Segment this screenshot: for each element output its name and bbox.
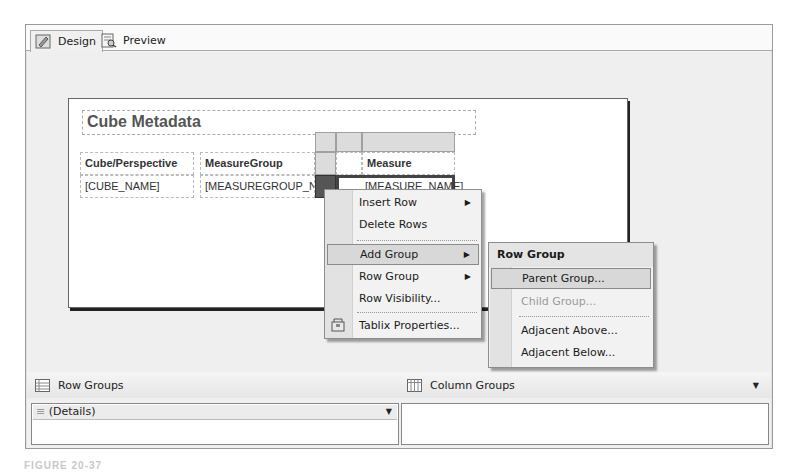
design-icon bbox=[35, 34, 52, 49]
context-menu: Insert Row ▶ Delete Rows Add Group ▶ Row… bbox=[324, 189, 482, 339]
menu-item-label: Adjacent Above... bbox=[521, 324, 618, 337]
submenu-item-adjacent-above[interactable]: Adjacent Above... bbox=[491, 320, 651, 341]
row-groups-label: Row Groups bbox=[58, 379, 124, 392]
menu-separator bbox=[519, 316, 649, 317]
header-cell-empty[interactable] bbox=[336, 152, 362, 175]
tablix-corner-handle[interactable] bbox=[315, 132, 336, 152]
row-groups-header: Row Groups bbox=[27, 372, 399, 398]
tab-design[interactable]: Design bbox=[30, 30, 103, 52]
column-handle[interactable] bbox=[336, 132, 362, 152]
submenu-arrow-icon: ▶ bbox=[465, 266, 471, 287]
row-groups-list: ≡ (Details) ▼ bbox=[31, 403, 399, 445]
menu-item-label: Delete Rows bbox=[359, 218, 427, 231]
figure-caption: FIGURE 20-37 bbox=[24, 460, 102, 471]
column-groups-header: Column Groups ▼ bbox=[399, 372, 771, 398]
tab-bar: Design Preview bbox=[26, 25, 772, 51]
menu-item-label: Row Group bbox=[359, 270, 419, 283]
properties-icon bbox=[331, 318, 346, 339]
column-groups-list bbox=[401, 403, 769, 445]
menu-separator bbox=[357, 240, 477, 241]
menu-item-delete-rows[interactable]: Delete Rows bbox=[327, 214, 479, 235]
menu-item-row-group[interactable]: Row Group ▶ bbox=[327, 266, 479, 287]
menu-item-label: Parent Group... bbox=[522, 272, 605, 285]
submenu-header: Row Group bbox=[489, 243, 653, 267]
tab-design-label: Design bbox=[58, 35, 96, 48]
row-group-item-label: (Details) bbox=[49, 405, 96, 418]
column-handle[interactable] bbox=[362, 132, 455, 152]
row-group-dropdown-icon[interactable]: ▼ bbox=[386, 405, 392, 419]
menu-item-label: Child Group... bbox=[521, 295, 596, 308]
header-cell-measuregroup[interactable]: MeasureGroup bbox=[200, 152, 315, 175]
submenu-item-adjacent-below[interactable]: Adjacent Below... bbox=[491, 342, 651, 363]
menu-item-row-visibility[interactable]: Row Visibility... bbox=[327, 288, 479, 309]
menu-item-label: Tablix Properties... bbox=[359, 319, 460, 332]
header-cell-measure[interactable]: Measure bbox=[362, 152, 455, 175]
column-groups-label: Column Groups bbox=[430, 379, 515, 392]
menu-item-label: Adjacent Below... bbox=[521, 346, 615, 359]
tab-preview[interactable]: Preview bbox=[96, 30, 172, 51]
menu-separator bbox=[357, 312, 477, 313]
header-cell-cube[interactable]: Cube/Perspective bbox=[80, 152, 194, 175]
grouping-pane: Row Groups Column Groups ▼ ≡ (Details) ▼ bbox=[27, 372, 771, 448]
row-group-item-details[interactable]: ≡ (Details) ▼ bbox=[33, 405, 397, 420]
tab-preview-label: Preview bbox=[123, 34, 166, 47]
menu-item-label: Row Visibility... bbox=[359, 292, 440, 305]
add-group-submenu: Row Group Parent Group... Child Group...… bbox=[488, 242, 654, 368]
detail-cell-measuregroup[interactable]: [MEASUREGROUP_NAM bbox=[200, 175, 315, 198]
grouping-options-dropdown-icon[interactable]: ▼ bbox=[753, 381, 759, 390]
submenu-item-parent-group[interactable]: Parent Group... bbox=[491, 268, 651, 289]
column-groups-icon bbox=[407, 379, 422, 392]
submenu-item-child-group[interactable]: Child Group... bbox=[491, 291, 651, 312]
row-handle-header[interactable] bbox=[315, 152, 336, 175]
details-group-icon: ≡ bbox=[36, 405, 49, 418]
preview-icon bbox=[100, 33, 117, 48]
menu-item-label: Insert Row bbox=[359, 196, 417, 209]
submenu-arrow-icon: ▶ bbox=[464, 245, 470, 264]
menu-item-add-group[interactable]: Add Group ▶ bbox=[327, 244, 479, 265]
menu-item-label: Add Group bbox=[360, 248, 418, 261]
menu-item-insert-row[interactable]: Insert Row ▶ bbox=[327, 192, 479, 213]
menu-item-tablix-properties[interactable]: Tablix Properties... bbox=[327, 315, 479, 336]
submenu-arrow-icon: ▶ bbox=[465, 192, 471, 213]
detail-cell-cube[interactable]: [CUBE_NAME] bbox=[80, 175, 194, 198]
row-groups-icon bbox=[35, 379, 50, 392]
